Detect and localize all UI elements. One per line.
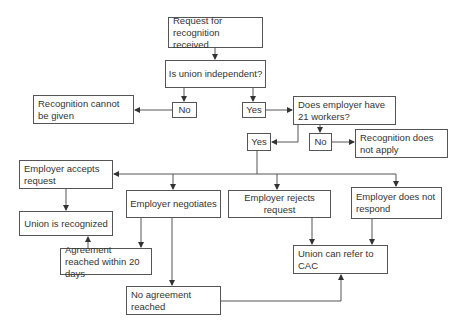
node-label: Does employer have 21 workers? [298,99,391,123]
node-request-received: Request for recognition received [168,17,263,48]
node-label: Is union independent? [169,68,263,80]
answer-yes-21-workers: Yes [247,133,271,151]
node-label: Agreement reached within 20 days [65,244,147,280]
node-employer-no-response: Employer does not respond [351,187,442,219]
node-label: Yes [246,104,262,116]
node-label: No agreement reached [131,289,216,313]
node-no-agreement: No agreement reached [126,286,221,315]
node-label: Request for recognition received [173,15,258,51]
decision-employer-21-workers: Does employer have 21 workers? [293,96,396,125]
node-label: No [178,104,190,116]
node-refer-to-cac: Union can refer to CAC [293,245,388,274]
node-label: Employer does not respond [356,191,437,215]
node-label: Employer rejects request [231,192,328,216]
answer-yes-independent: Yes [242,102,266,118]
node-label: Recognition does not apply [360,132,443,156]
node-agreement-20-days: Agreement reached within 20 days [60,248,152,275]
node-label: Employer accepts request [24,163,108,187]
node-employer-rejects: Employer rejects request [228,190,331,218]
node-label: Yes [251,136,267,148]
node-label: Union can refer to CAC [298,248,383,272]
decision-union-independent: Is union independent? [165,60,266,88]
node-recognition-does-not-apply: Recognition does not apply [355,129,448,158]
node-label: Recognition cannot be given [38,98,129,122]
node-employer-negotiates: Employer negotiates [126,190,221,218]
node-recognition-cannot-be-given: Recognition cannot be given [33,95,134,124]
node-label: Union is recognized [24,218,107,230]
answer-no-21-workers: No [309,133,332,151]
node-union-recognized: Union is recognized [19,211,113,236]
node-employer-accepts: Employer accepts request [19,160,113,189]
node-label: Employer negotiates [130,198,217,210]
node-label: No [314,136,326,148]
answer-no-independent: No [172,102,197,118]
